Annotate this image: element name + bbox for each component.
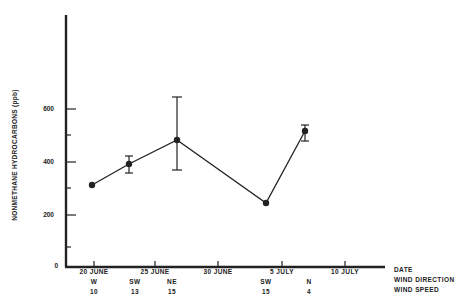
y-tick-label-600: 600 — [30, 105, 54, 112]
wind-speed-4: 15 — [262, 288, 270, 295]
wind-speed-5: 4 — [307, 288, 311, 295]
wind-speed-2: 13 — [131, 288, 139, 295]
wind-direction-2: SW — [129, 278, 140, 285]
row-label-date: DATE — [394, 266, 413, 273]
row-label-wind-direction: WIND DIRECTION — [394, 276, 455, 283]
wind-direction-4: SW — [260, 278, 271, 285]
wind-direction-5: N — [306, 278, 311, 285]
data-points — [89, 128, 308, 206]
y-tick-label-400: 400 — [30, 158, 54, 165]
wind-direction-1: W — [91, 278, 98, 285]
wind-direction-3: NE — [167, 278, 177, 285]
y-tick-label-200: 200 — [30, 211, 54, 218]
y-ticks — [66, 109, 76, 247]
chart-canvas — [0, 0, 466, 305]
wind-speed-3: 15 — [168, 288, 176, 295]
wind-speed-1: 10 — [90, 288, 98, 295]
y-tick-label-0: 0 — [38, 262, 58, 269]
x-tick-label-5-july: 5 JULY — [270, 268, 294, 275]
x-tick-label-25-june: 25 JUNE — [140, 268, 169, 275]
data-line — [92, 131, 305, 203]
error-bars — [125, 97, 309, 173]
x-tick-label-30-june: 30 JUNE — [203, 268, 232, 275]
x-tick-label-10-july: 10 JULY — [331, 268, 359, 275]
row-label-wind-speed: WIND SPEED — [394, 286, 439, 293]
y-axis-label: NONMETHANE HYDROCARBONS (ppb) — [11, 89, 18, 220]
x-tick-label-20-june: 20 JUNE — [79, 268, 108, 275]
